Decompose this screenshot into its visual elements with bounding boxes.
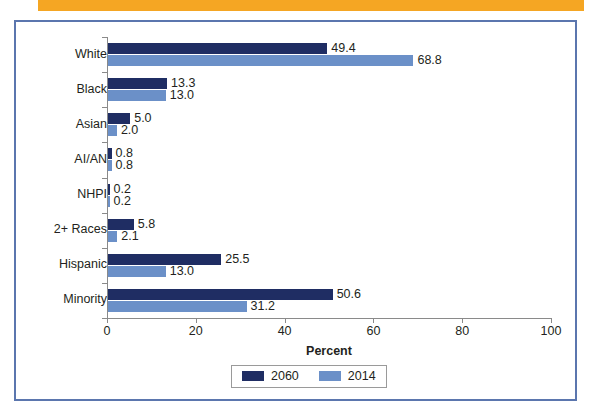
bar-2014-asian bbox=[108, 125, 117, 136]
chart-figure-frame: WhiteBlackAsianAI/ANNHPI2+ RacesHispanic… bbox=[14, 20, 577, 401]
legend-label-2060: 2060 bbox=[271, 370, 299, 383]
y-axis-tick bbox=[102, 37, 107, 38]
bar-chart: WhiteBlackAsianAI/ANNHPI2+ RacesHispanic… bbox=[16, 22, 579, 403]
legend-label-2014: 2014 bbox=[348, 370, 376, 383]
category-label-ai-an: AI/AN bbox=[21, 153, 107, 166]
bar-2060-nhpi bbox=[108, 184, 110, 195]
bar-2060-ai-an bbox=[108, 148, 112, 159]
bar-value-label: 68.8 bbox=[417, 55, 441, 66]
bar-value-label: 2.1 bbox=[121, 231, 138, 242]
legend-swatch-2014 bbox=[319, 371, 341, 381]
category-label-minority: Minority bbox=[21, 293, 107, 306]
category-label-hispanic: Hispanic bbox=[21, 258, 107, 271]
bar-value-label: 0.2 bbox=[114, 184, 131, 195]
bar-value-label: 5.8 bbox=[138, 219, 155, 230]
orange-header-band bbox=[38, 0, 584, 11]
bar-value-label: 2.0 bbox=[121, 125, 138, 136]
bar-value-label: 49.4 bbox=[331, 43, 355, 54]
category-label-asian: Asian bbox=[21, 118, 107, 131]
bar-2014-ai-an bbox=[108, 160, 112, 171]
legend-swatch-2060 bbox=[242, 371, 264, 381]
bar-2014-black bbox=[108, 90, 166, 101]
x-axis-tick bbox=[285, 318, 286, 323]
bar-2060-white bbox=[108, 43, 327, 54]
x-axis-tick-label: 0 bbox=[87, 324, 127, 338]
category-label-2-races: 2+ Races bbox=[21, 223, 107, 236]
bar-value-label: 0.2 bbox=[114, 196, 131, 207]
legend-entry-2014: 2014 bbox=[319, 370, 376, 383]
bar-2014-hispanic bbox=[108, 266, 166, 277]
y-axis-tick bbox=[102, 283, 107, 284]
y-axis-tick bbox=[102, 178, 107, 179]
y-axis-tick bbox=[102, 72, 107, 73]
category-label-white: White bbox=[21, 48, 107, 61]
x-axis-tick bbox=[462, 318, 463, 323]
legend-entry-2060: 2060 bbox=[242, 370, 299, 383]
bar-2060-hispanic bbox=[108, 254, 221, 265]
x-axis-tick-label: 80 bbox=[442, 324, 482, 338]
x-axis-tick-label: 100 bbox=[531, 324, 571, 338]
x-axis-tick bbox=[196, 318, 197, 323]
bar-value-label: 25.5 bbox=[225, 254, 249, 265]
bar-2014-white bbox=[108, 55, 413, 66]
x-axis-line bbox=[107, 318, 551, 319]
x-axis-tick-label: 60 bbox=[353, 324, 393, 338]
bar-value-label: 13.0 bbox=[170, 266, 194, 277]
x-axis-title: Percent bbox=[107, 344, 551, 358]
x-axis-tick-label: 20 bbox=[176, 324, 216, 338]
bar-2060-minority bbox=[108, 289, 333, 300]
bar-2014-minority bbox=[108, 301, 247, 312]
x-axis-tick bbox=[373, 318, 374, 323]
bar-value-label: 0.8 bbox=[116, 160, 133, 171]
chart-legend: 2060 2014 bbox=[231, 365, 387, 388]
bar-value-label: 31.2 bbox=[251, 301, 275, 312]
y-axis-tick bbox=[102, 142, 107, 143]
x-axis-tick-label: 40 bbox=[265, 324, 305, 338]
x-axis-tick bbox=[551, 318, 552, 323]
category-axis-labels: WhiteBlackAsianAI/ANNHPI2+ RacesHispanic… bbox=[16, 22, 107, 403]
y-axis-tick bbox=[102, 107, 107, 108]
bar-2014-nhpi bbox=[108, 196, 110, 207]
y-axis-tick bbox=[102, 213, 107, 214]
plot-area: 49.468.813.313.05.02.00.80.80.20.25.82.1… bbox=[107, 37, 551, 318]
bar-value-label: 50.6 bbox=[337, 289, 361, 300]
x-axis-tick bbox=[107, 318, 108, 323]
bar-2060-black bbox=[108, 78, 167, 89]
y-axis-tick bbox=[102, 248, 107, 249]
bar-2014-2-races bbox=[108, 231, 117, 242]
bar-value-label: 13.0 bbox=[170, 90, 194, 101]
category-label-black: Black bbox=[21, 83, 107, 96]
category-label-nhpi: NHPI bbox=[21, 188, 107, 201]
